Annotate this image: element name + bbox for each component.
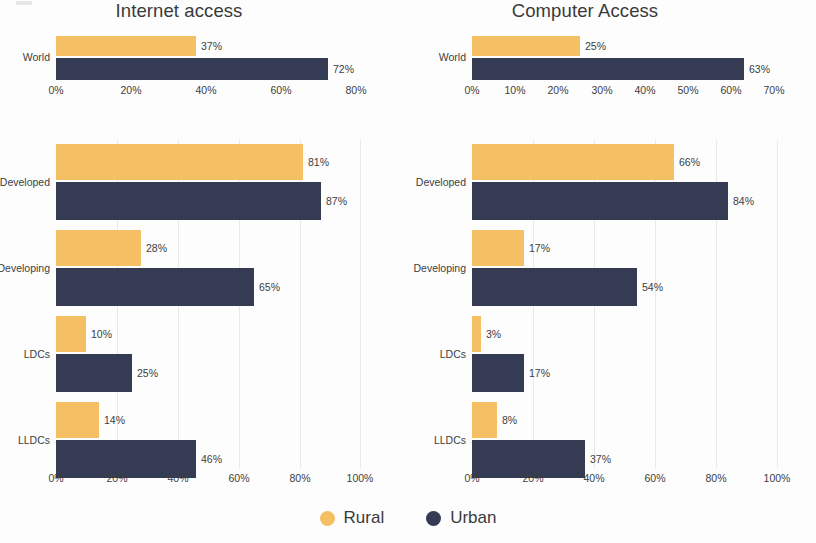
bar-value-rural-ldcs: 3% [481, 328, 501, 340]
x-tick: 40% [583, 472, 604, 484]
bar-row-urban: 17% [472, 354, 778, 392]
bar-row-urban: 72% [56, 58, 361, 80]
bar-urban-world[interactable] [472, 58, 744, 80]
bar-value-urban-ldcs: 17% [524, 367, 550, 379]
bar-rural-world[interactable] [56, 36, 196, 56]
x-tick: 0% [48, 84, 63, 96]
bar-row-rural: 25% [472, 36, 775, 56]
category-label-world: World [439, 51, 466, 63]
category-label-developed: Developed [416, 176, 466, 188]
bar-urban-ldcs[interactable] [56, 354, 132, 392]
circle-icon [320, 511, 335, 526]
bar-value-urban-lldcs: 46% [196, 453, 222, 465]
bar-row-rural: 10% [56, 316, 361, 352]
bar-group-developed: Developed 81% 87% [56, 144, 361, 220]
bar-urban-ldcs[interactable] [472, 354, 524, 392]
bar-value-rural-world: 37% [196, 40, 222, 52]
bar-rural-world[interactable] [472, 36, 580, 56]
bar-urban-developed[interactable] [56, 182, 321, 220]
bar-row-urban: 65% [56, 268, 361, 306]
bar-group-lldcs: LLDCs 14% 46% [56, 402, 361, 478]
x-tick: 70% [763, 84, 784, 96]
category-label-developed: Developed [0, 176, 50, 188]
x-axis-internet-world: 0% 20% 40% 60% 80% [56, 84, 361, 100]
bar-urban-developing[interactable] [472, 268, 637, 306]
bar-value-urban-developing: 65% [254, 281, 280, 293]
legend-item-urban[interactable]: Urban [426, 508, 496, 528]
x-tick: 40% [195, 84, 216, 96]
bar-value-urban-ldcs: 25% [132, 367, 158, 379]
x-tick: 20% [120, 84, 141, 96]
bar-value-urban-world: 72% [328, 63, 354, 75]
x-tick: 50% [677, 84, 698, 96]
bar-row-rural: 28% [56, 230, 361, 266]
bar-rural-developing[interactable] [56, 230, 141, 266]
bar-rural-developing[interactable] [472, 230, 524, 266]
circle-icon [426, 511, 441, 526]
bar-rural-ldcs[interactable] [472, 316, 481, 352]
plot-computer-main: Developed 66% 84% Developing 17% [472, 140, 778, 468]
bar-row-rural: 81% [56, 144, 361, 180]
bar-value-urban-developed: 84% [728, 195, 754, 207]
x-axis-computer-world: 0% 10% 20% 30% 40% 50% 60% 70% [472, 84, 775, 100]
category-label-developing: Developing [0, 262, 50, 274]
bar-value-urban-developing: 54% [637, 281, 663, 293]
legend-label-urban: Urban [450, 508, 496, 528]
bar-row-urban: 87% [56, 182, 361, 220]
bar-group-lldcs: LLDCs 8% 37% [472, 402, 778, 478]
bar-urban-developed[interactable] [472, 182, 728, 220]
bar-value-rural-world: 25% [580, 40, 606, 52]
x-tick: 20% [522, 472, 543, 484]
bar-value-rural-lldcs: 8% [497, 414, 517, 426]
category-label-world: World [23, 51, 50, 63]
x-tick: 40% [634, 84, 655, 96]
legend-item-rural[interactable]: Rural [320, 508, 385, 528]
x-tick: 80% [345, 84, 366, 96]
bar-group-world: World 25% 63% [472, 34, 775, 80]
plot-internet-world: World 37% 72% 0% 20% 40% 60% 80% [56, 34, 361, 80]
bar-urban-world[interactable] [56, 58, 328, 80]
bar-rural-developed[interactable] [56, 144, 303, 180]
bar-value-urban-world: 63% [744, 63, 770, 75]
bar-group-ldcs: LDCs 10% 25% [56, 316, 361, 392]
x-tick: 20% [106, 472, 127, 484]
bar-row-rural: 37% [56, 36, 361, 56]
x-tick: 0% [464, 84, 479, 96]
x-tick: 60% [228, 472, 249, 484]
bar-row-urban: 63% [472, 58, 775, 80]
plot-computer-world: World 25% 63% 0% 10% 20% 30% 40% 50% 60%… [472, 34, 775, 80]
bar-row-rural: 14% [56, 402, 361, 438]
bar-row-rural: 66% [472, 144, 778, 180]
bar-rural-lldcs[interactable] [56, 402, 99, 438]
category-label-lldcs: LLDCs [18, 434, 50, 446]
chart-page: Internet access World 37% 72% 0% 20% 40%… [0, 0, 816, 543]
bar-value-rural-developed: 66% [674, 156, 700, 168]
bar-value-urban-developed: 87% [321, 195, 347, 207]
x-tick: 20% [547, 84, 568, 96]
bar-group-ldcs: LDCs 3% 17% [472, 316, 778, 392]
bar-rural-lldcs[interactable] [472, 402, 497, 438]
x-axis-internet-main: 0% 20% 40% 60% 80% 100% [56, 472, 361, 488]
bar-row-urban: 54% [472, 268, 778, 306]
bar-rural-ldcs[interactable] [56, 316, 86, 352]
bar-value-rural-ldcs: 10% [86, 328, 112, 340]
x-tick: 0% [48, 472, 63, 484]
bar-value-rural-developing: 17% [524, 242, 550, 254]
chart-legend: Rural Urban [0, 508, 816, 528]
bar-value-rural-developing: 28% [141, 242, 167, 254]
x-tick: 80% [289, 472, 310, 484]
chart-title-internet-access: Internet access [14, 0, 344, 22]
chart-title-computer-access: Computer Access [420, 0, 750, 22]
x-tick: 80% [705, 472, 726, 484]
legend-label-rural: Rural [344, 508, 385, 528]
bar-rural-developed[interactable] [472, 144, 674, 180]
bar-value-urban-lldcs: 37% [585, 453, 611, 465]
bar-group-developing: Developing 17% 54% [472, 230, 778, 306]
x-tick: 40% [167, 472, 188, 484]
bar-group-world: World 37% 72% [56, 34, 361, 80]
plot-internet-main: Developed 81% 87% Developing 28% [56, 140, 361, 468]
bar-value-rural-lldcs: 14% [99, 414, 125, 426]
x-tick: 60% [720, 84, 741, 96]
bar-row-rural: 8% [472, 402, 778, 438]
bar-urban-developing[interactable] [56, 268, 254, 306]
